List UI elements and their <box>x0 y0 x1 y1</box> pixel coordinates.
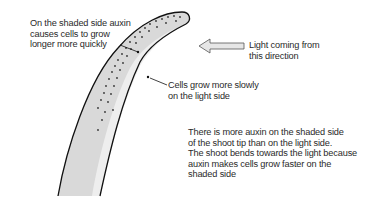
light-arrow-icon <box>199 39 244 53</box>
shaded-side-label: On the shaded side auxin causes cells to… <box>30 18 131 50</box>
explanation-text: There is more auxin on the shaded side o… <box>188 127 357 180</box>
light-side-label: Cells grow more slowly on the light side <box>168 80 259 101</box>
light-direction-label: Light coming from this direction <box>249 40 319 61</box>
leader-light <box>150 78 167 85</box>
